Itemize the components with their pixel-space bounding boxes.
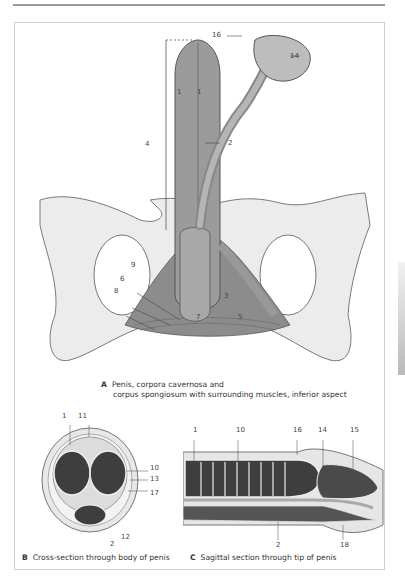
- header-rule: [13, 4, 385, 6]
- label-a-1-left: 1: [177, 89, 181, 96]
- figure-a-caption: APenis, corpora cavernosa and corpus spo…: [101, 380, 381, 400]
- figure-c-caption: CSagittal section through tip of penis: [190, 553, 337, 563]
- figure-b-illustration: [40, 425, 150, 540]
- label-b-2: 2: [110, 541, 114, 548]
- figure-b-caption-text: Cross-section through body of penis: [33, 553, 170, 562]
- label-a-5: 5: [238, 314, 242, 321]
- label-c-15: 15: [350, 427, 359, 434]
- label-a-4: 4: [145, 141, 149, 148]
- label-a-7: 7: [196, 314, 200, 321]
- label-b-10: 10: [150, 465, 159, 472]
- label-a-3: 3: [224, 293, 228, 300]
- label-c-18: 18: [340, 542, 349, 549]
- label-a-2: 2: [228, 140, 232, 147]
- label-a-9: 9: [131, 262, 135, 269]
- figure-a-illustration: [30, 25, 375, 370]
- figure-a-caption-line2: corpus spongiosum with surrounding muscl…: [113, 390, 347, 399]
- label-a-8: 8: [114, 288, 118, 295]
- label-b-17: 17: [150, 490, 159, 497]
- label-a-6: 6: [120, 276, 124, 283]
- figure-c-caption-text: Sagittal section through tip of penis: [201, 553, 337, 562]
- label-b-11: 11: [78, 413, 87, 420]
- label-c-16: 16: [293, 427, 302, 434]
- figure-a-letter: A: [101, 380, 107, 389]
- label-c-14: 14: [318, 427, 327, 434]
- label-a-14: 14: [290, 53, 299, 60]
- chapter-side-tab: [398, 262, 405, 375]
- label-b-13: 13: [150, 476, 159, 483]
- label-c-1: 1: [193, 427, 197, 434]
- label-a-16: 16: [212, 32, 221, 39]
- label-b-12: 12: [121, 534, 130, 541]
- label-b-1: 1: [62, 413, 66, 420]
- figure-b-caption: BCross-section through body of penis: [22, 553, 170, 563]
- label-c-10: 10: [236, 427, 245, 434]
- figure-b-letter: B: [22, 553, 28, 562]
- figure-c-illustration: [183, 440, 385, 540]
- figure-a-caption-line1: Penis, corpora cavernosa and: [112, 380, 224, 389]
- figure-c-letter: C: [190, 553, 196, 562]
- label-a-1-right: 1: [197, 89, 201, 96]
- label-c-2: 2: [276, 542, 280, 549]
